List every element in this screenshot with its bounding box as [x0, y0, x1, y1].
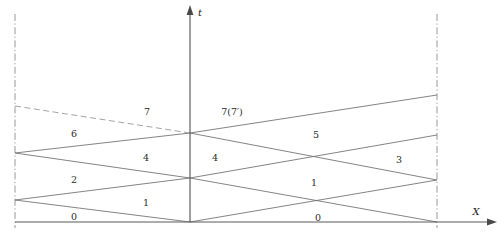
region-label-4-left: 4: [143, 152, 149, 163]
region-label-1-left: 1: [143, 197, 149, 208]
region-label-0-right: 0: [315, 212, 321, 223]
char-line-b2: [15, 133, 190, 153]
t-axis-arrowhead: [187, 5, 194, 15]
x-axis-label: X: [471, 206, 480, 217]
region-label-7-7prime: 7(7′): [221, 106, 243, 117]
x-axis-arrowhead: [487, 219, 497, 226]
boundary-lines: [15, 14, 437, 228]
region-label-6: 6: [71, 128, 77, 139]
char-line-b1: [15, 153, 190, 178]
dashed-characteristic: [15, 106, 190, 133]
t-axis-label: t: [198, 7, 203, 18]
region-label-1-right: 1: [311, 177, 317, 188]
region-label-7-left: 7: [144, 106, 150, 117]
figure-canvas: t X 7 7(7′) 6 5 4 4 3 2 1 1 0 0: [0, 0, 504, 237]
region-label-0-left: 0: [71, 211, 77, 222]
region-label-5: 5: [313, 129, 319, 140]
region-label-2: 2: [71, 174, 77, 185]
axes: [15, 5, 497, 225]
char-line-a2: [15, 178, 190, 200]
char-line-dashed: [15, 106, 190, 133]
region-label-4-right: 4: [212, 152, 218, 163]
region-label-3: 3: [396, 154, 402, 165]
space-time-diagram: t X 7 7(7′) 6 5 4 4 3 2 1 1 0 0: [0, 0, 504, 237]
char-line-a1: [15, 200, 190, 222]
